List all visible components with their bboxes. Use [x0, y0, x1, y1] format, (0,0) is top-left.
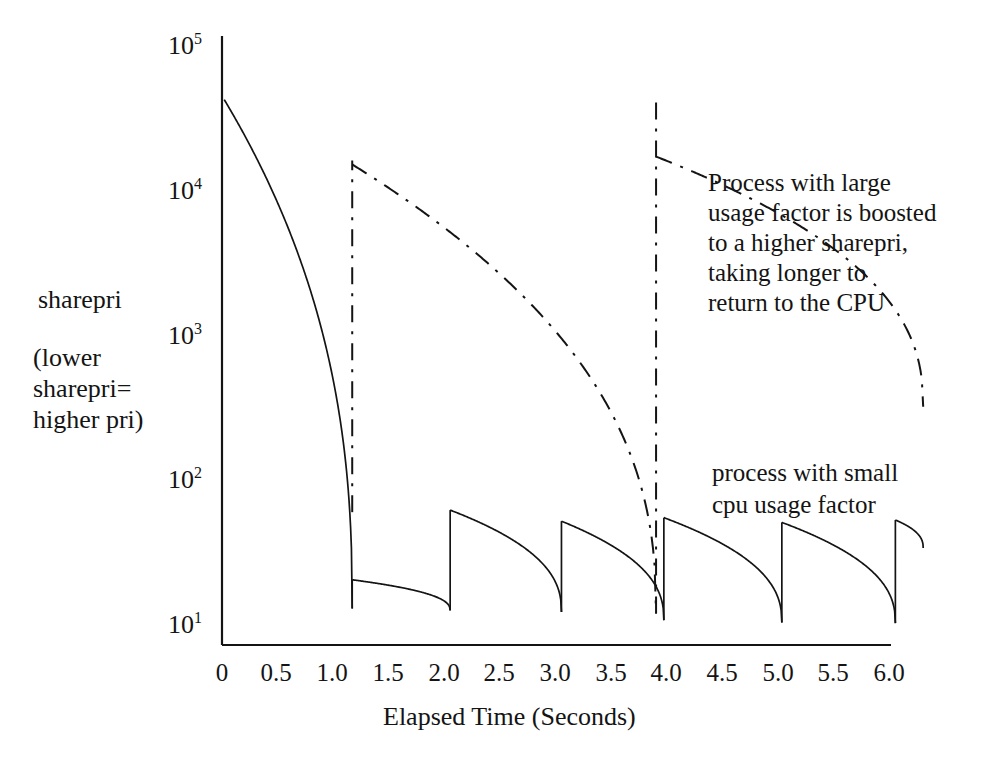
x-tick-50: 5.0 — [751, 659, 805, 687]
x-tick-30: 3.0 — [528, 659, 582, 687]
y-tick-1e2: 102 — [168, 464, 202, 495]
annotation-large-usage-line3: to a higher sharepri, — [708, 228, 908, 258]
y-axis-title: sharepri — [38, 285, 122, 315]
annotation-large-usage-line5: return to the CPU — [708, 288, 885, 318]
x-tick-05: 0.5 — [249, 659, 303, 687]
annotation-large-usage-line4: taking longer to — [708, 258, 866, 288]
y-axis-subtitle-line3: higher pri) — [33, 404, 143, 435]
x-tick-55: 5.5 — [806, 659, 860, 687]
y-tick-1e5: 105 — [168, 30, 202, 61]
annotation-large-usage-line1: Process with large — [708, 168, 891, 198]
x-tick-25: 2.5 — [472, 659, 526, 687]
plot-canvas — [0, 0, 989, 769]
x-tick-15: 1.5 — [361, 659, 415, 687]
chart-figure: 105 104 103 102 101 0 0.5 1.0 1.5 2.0 2.… — [0, 0, 989, 769]
x-tick-40: 4.0 — [639, 659, 693, 687]
x-tick-10: 1.0 — [305, 659, 359, 687]
annotation-small-usage-line1: process with small — [712, 458, 898, 488]
y-axis-subtitle-line1: (lower — [33, 342, 101, 373]
x-tick-35: 3.5 — [584, 659, 638, 687]
y-tick-1e1: 101 — [168, 609, 202, 640]
annotation-small-usage-line2: cpu usage factor — [712, 490, 876, 520]
y-tick-1e3: 103 — [168, 320, 202, 351]
x-tick-20: 2.0 — [417, 659, 471, 687]
x-tick-0: 0 — [195, 659, 249, 687]
y-axis-subtitle-line2: sharepri= — [33, 373, 131, 404]
y-tick-1e4: 104 — [168, 175, 202, 206]
x-axis-title: Elapsed Time (Seconds) — [383, 702, 636, 732]
x-tick-45: 4.5 — [695, 659, 749, 687]
x-tick-60: 6.0 — [862, 659, 916, 687]
annotation-large-usage-line2: usage factor is boosted — [708, 198, 936, 228]
